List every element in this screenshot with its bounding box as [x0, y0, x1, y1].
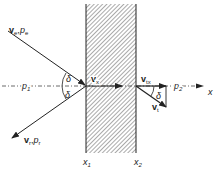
diagram-canvas: ve,pe vr,pr p1 p2 δ δ δ vx vtx vt x x1 x… [0, 0, 222, 176]
x2-label: x2 [133, 157, 143, 168]
reflected-ray [12, 86, 86, 138]
transmitted-ray [136, 86, 166, 107]
x-axis-arrow-icon [196, 84, 204, 89]
x-axis-label: x [207, 87, 213, 97]
incident-ray [8, 31, 85, 85]
angle-arc-transmitted [151, 86, 154, 96]
p2-label: p2 [173, 81, 183, 92]
vtx-label: vtx [141, 74, 151, 85]
angle-label-reflected: δ [65, 90, 71, 100]
x1-label: x1 [82, 157, 91, 168]
angle-label-transmitted: δ [156, 91, 162, 101]
reflected-label: vr,pr [24, 135, 41, 146]
p1-label: p1 [21, 81, 30, 92]
vt-label: vt [152, 102, 159, 113]
incident-label: ve,pe [9, 25, 29, 36]
